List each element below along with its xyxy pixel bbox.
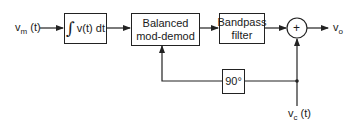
carrier-label-suffix: (t) <box>298 107 311 119</box>
balanced-mod-demod-block: Balanced mod-demod <box>131 13 200 46</box>
carrier-signal-label: vc (t) <box>288 108 311 122</box>
mod-demod-line1: Balanced <box>143 17 189 30</box>
output-label-sub: o <box>339 27 343 36</box>
bandpass-line1: Bandpass <box>218 16 267 29</box>
bandpass-line2: filter <box>232 29 253 42</box>
integrator-text: v(t) dt <box>77 22 105 35</box>
integral-symbol: ∫ <box>66 22 75 35</box>
input-signal-label: vm (t) <box>15 22 41 36</box>
summer-plus-sign: + <box>293 22 300 34</box>
phase-shift-text: 90° <box>225 75 242 88</box>
output-signal-label: vo <box>333 22 343 36</box>
bandpass-filter-block: Bandpass filter <box>219 13 265 44</box>
input-label-suffix: (t) <box>27 21 40 33</box>
integrator-block: ∫ v(t) dt <box>64 13 107 44</box>
phase-shift-90-block: 90° <box>222 69 245 94</box>
mod-demod-line2: mod-demod <box>136 30 195 43</box>
